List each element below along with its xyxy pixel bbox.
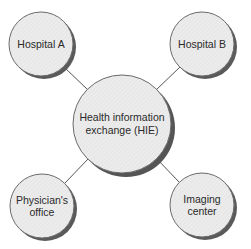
label-hospital-b: Hospital B: [170, 12, 234, 76]
label-imaging-center: Imaging center: [170, 173, 234, 237]
label-hospital-a: Hospital A: [9, 12, 73, 76]
label-hub-hie: Health information exchange (HIE): [73, 75, 171, 173]
label-physicians-office: Physician's office: [10, 174, 74, 238]
